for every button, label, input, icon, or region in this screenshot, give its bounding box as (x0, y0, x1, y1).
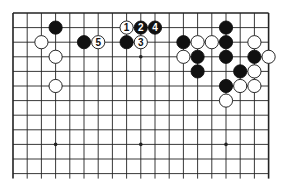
white-stone (35, 36, 48, 49)
black-stone (191, 50, 204, 63)
move-number-label: 1 (124, 22, 130, 33)
move-number-label: 3 (138, 37, 144, 48)
black-stone (248, 50, 261, 63)
black-stone (219, 21, 232, 34)
white-stone-move-5: 5 (92, 36, 105, 49)
move-number-label: 4 (152, 22, 158, 33)
black-stone (234, 65, 247, 78)
white-stone (248, 65, 261, 78)
black-stone-move-2: 2 (134, 21, 147, 34)
star-point (139, 143, 143, 147)
black-stone (77, 36, 90, 49)
white-stone (234, 79, 247, 92)
white-stone-move-1: 1 (120, 21, 133, 34)
star-point (54, 143, 58, 147)
white-stone (219, 94, 232, 107)
black-stone (219, 79, 232, 92)
black-stone (191, 65, 204, 78)
white-stone (177, 50, 190, 63)
black-stone (219, 36, 232, 49)
white-stone (248, 79, 261, 92)
black-stone (49, 21, 62, 34)
white-stone (191, 36, 204, 49)
white-stone (262, 50, 275, 63)
black-stone (177, 36, 190, 49)
white-stone (49, 50, 62, 63)
move-number-label: 5 (95, 37, 101, 48)
star-point (224, 143, 228, 147)
white-stone-move-3: 3 (134, 36, 147, 49)
move-number-label: 2 (138, 22, 144, 33)
black-stone (120, 36, 133, 49)
white-stone (49, 79, 62, 92)
black-stone-move-4: 4 (148, 21, 161, 34)
star-point (139, 55, 143, 59)
black-stone (219, 50, 232, 63)
white-stone (205, 36, 218, 49)
white-stone (248, 36, 261, 49)
go-board: 51243 (0, 0, 283, 179)
